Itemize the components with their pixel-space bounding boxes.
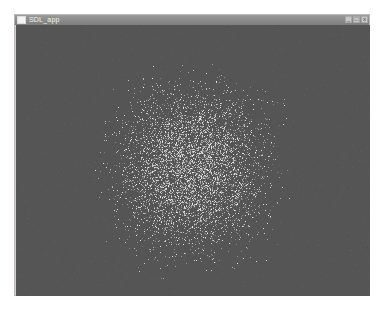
- window-title: SDL_app: [29, 15, 60, 25]
- minimize-button[interactable]: _: [345, 16, 352, 23]
- render-surface[interactable]: [16, 25, 368, 294]
- app-window: SDL_app _ □ x: [14, 14, 370, 296]
- close-button[interactable]: x: [361, 16, 368, 23]
- particle-field-canvas: [16, 25, 370, 296]
- app-icon[interactable]: [17, 16, 26, 24]
- title-bar[interactable]: SDL_app _ □ x: [15, 15, 369, 25]
- maximize-button[interactable]: □: [353, 16, 360, 23]
- window-controls: _ □ x: [345, 16, 368, 23]
